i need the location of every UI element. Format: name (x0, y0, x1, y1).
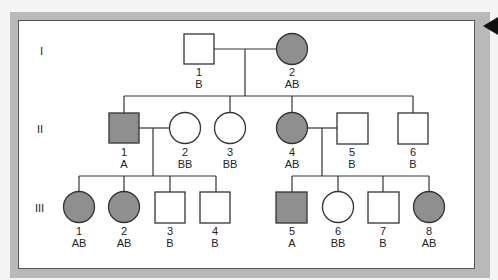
individual-III-1 (64, 192, 95, 223)
individual-II-3 (215, 113, 246, 144)
individual-label: 4AB (272, 146, 312, 170)
individual-label: 8AB (409, 225, 449, 249)
individual-label: 1A (104, 146, 144, 170)
individual-III-5 (276, 192, 307, 223)
individual-II-1 (109, 113, 139, 143)
individual-label: 5B (332, 146, 372, 170)
individual-III-4 (200, 192, 230, 223)
generation-label-II: II (37, 123, 43, 135)
individual-I-1 (184, 34, 214, 64)
individual-label: 2AB (272, 66, 312, 90)
individual-label: 4B (195, 225, 235, 249)
individual-label: 6BB (318, 225, 358, 249)
individual-II-6 (398, 113, 428, 144)
individual-II-4 (277, 113, 308, 144)
individual-label: 3B (150, 225, 190, 249)
individual-I-2 (277, 34, 308, 65)
individual-label: 2BB (165, 146, 205, 170)
individual-II-5 (337, 113, 368, 144)
individual-label: 1B (179, 66, 219, 90)
individual-label: 7B (363, 225, 403, 249)
individual-III-2 (109, 192, 140, 223)
generation-label-I: I (40, 45, 43, 57)
individual-label: 2AB (104, 225, 144, 249)
individual-III-8 (414, 192, 445, 223)
individual-III-6 (323, 192, 354, 223)
generation-label-III: III (35, 202, 44, 214)
individual-III-3 (155, 192, 185, 223)
individual-II-2 (170, 113, 201, 144)
individual-label: 3BB (210, 146, 250, 170)
individual-label: 6B (393, 146, 433, 170)
individual-label: 5A (272, 225, 312, 249)
individual-label: 1AB (59, 225, 99, 249)
individual-III-7 (368, 192, 399, 223)
